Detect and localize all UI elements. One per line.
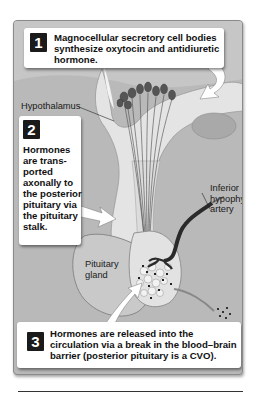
label-line: artery xyxy=(210,204,243,215)
label-hypothalamus: Hypothalamus xyxy=(21,101,80,112)
label-line: hypophyseal xyxy=(210,194,243,205)
label-line: Pituitary xyxy=(85,259,119,270)
label-line: Inferior xyxy=(210,183,243,194)
callout-step-2: 2 Hormones are trans-ported axonally to … xyxy=(19,116,81,245)
divider-rule xyxy=(18,391,243,392)
label-pituitary-gland: Pituitary gland xyxy=(85,259,119,280)
callout-step-1: 1 Magnocellular secretory cell bodies sy… xyxy=(24,28,224,68)
callout-step-3: 3 Hormones are released into the circula… xyxy=(17,322,241,368)
step-number-badge: 2 xyxy=(23,120,40,139)
callout-text: Magnocellular secretory cell bodies synt… xyxy=(54,32,222,65)
label-inferior-hypophyseal-artery: Inferior hypophyseal artery xyxy=(210,183,243,215)
label-line: gland xyxy=(85,270,119,281)
step-number-badge: 3 xyxy=(27,332,44,351)
callout-text: Hormones are released into the circulati… xyxy=(50,328,240,361)
callout-text: Hormones are trans-ported axonally to th… xyxy=(23,144,83,232)
diagram-panel: 1 Magnocellular secretory cell bodies sy… xyxy=(13,20,243,375)
step-number-badge: 1 xyxy=(30,33,47,52)
